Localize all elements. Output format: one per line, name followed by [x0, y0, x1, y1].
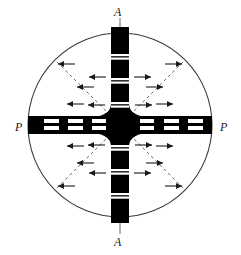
arrows-lower-left [58, 145, 106, 186]
axis-label-a-bottom: A [114, 236, 121, 248]
technical-diagram-svg [0, 0, 241, 255]
lower-left-diagonal [57, 136, 109, 188]
axis-label-p-left: P [15, 121, 22, 133]
axis-label-p-right: P [220, 121, 227, 133]
arrows-upper-left [58, 64, 106, 105]
upper-right-diagonal [131, 62, 183, 114]
arrows-lower-right [134, 145, 182, 186]
figure-container: A A P P [0, 0, 241, 255]
arrows-upper-right [134, 64, 182, 105]
upper-left-diagonal [57, 62, 109, 114]
lower-right-diagonal [131, 136, 183, 188]
axis-label-a-top: A [114, 6, 121, 18]
